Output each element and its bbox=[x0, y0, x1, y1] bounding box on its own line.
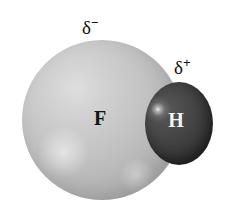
delta-positive-label: δ+ bbox=[174, 56, 191, 77]
fluorine-symbol-label: F bbox=[88, 108, 112, 128]
delta-positive-sign: + bbox=[183, 55, 191, 70]
delta-negative-greek: δ bbox=[82, 17, 91, 38]
delta-negative-label: δ− bbox=[82, 16, 99, 37]
delta-positive-greek: δ bbox=[174, 57, 183, 78]
delta-negative-sign: − bbox=[91, 15, 99, 30]
hydrogen-symbol-label: H bbox=[163, 110, 189, 130]
hf-molecule-figure: F H δ− δ+ bbox=[0, 0, 228, 214]
